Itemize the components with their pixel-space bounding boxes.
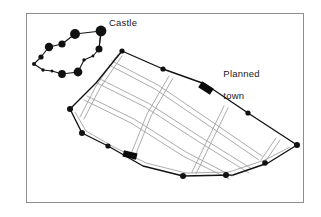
town-wall-vertex: [262, 160, 268, 166]
planned-town-label-line2: town: [223, 90, 244, 101]
town-wall-vertex: [160, 66, 165, 71]
planned-town-label-line1: Planned: [223, 68, 259, 79]
plan-drawing: [0, 0, 321, 217]
castle-towers: [32, 26, 106, 78]
castle-tower: [58, 40, 65, 47]
castle-tower: [45, 43, 53, 51]
street-transverse-4: [261, 138, 280, 162]
town-wall-vertices: [67, 48, 300, 179]
castle-turret: [41, 68, 44, 71]
street-transverse-3: [192, 106, 228, 174]
castle-turret: [51, 70, 54, 73]
town-plan-figure: Castle Planned town: [0, 0, 321, 217]
castle-great-tower: [96, 26, 107, 37]
castle-tower: [74, 68, 83, 77]
castle-turret: [82, 58, 85, 61]
town-rampart-inner: [75, 112, 290, 173]
castle-tower: [38, 54, 43, 59]
castle-wall-outline: [34, 31, 101, 74]
town-wall-vertex: [105, 143, 110, 148]
town-wall-vertex: [119, 48, 124, 53]
street-transverse-2: [129, 76, 173, 161]
castle-tower: [96, 46, 103, 53]
castle-tower: [58, 70, 66, 78]
town-wall-vertex: [294, 142, 300, 148]
castle-turret: [92, 55, 95, 58]
planned-town-label: Planned town: [212, 57, 260, 112]
castle-turret: [32, 62, 36, 66]
castle-tower: [70, 29, 80, 39]
town-wall-vertex: [79, 130, 85, 136]
town-wall-vertex: [223, 172, 229, 178]
town-wall-vertex: [180, 173, 186, 179]
street-longitudinal-3: [84, 96, 232, 179]
castle-label: Castle: [109, 17, 137, 28]
town-wall-vertex: [67, 106, 73, 112]
